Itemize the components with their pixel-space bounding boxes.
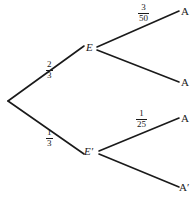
fraction-numerator: 3 (138, 3, 149, 12)
probability-label-E-prime-to-A: 1 25 (136, 109, 147, 130)
tree-branch-lines (0, 0, 195, 199)
leaf-label-A-second: A (181, 77, 189, 88)
leaf-label-A-prime-bottom: A′ (179, 182, 189, 193)
node-label-E-prime: E′ (84, 146, 93, 157)
branch-line-E-to-A-prime (97, 50, 179, 82)
branch-line-E-prime-to-A-prime (99, 154, 179, 187)
probability-label-root-to-E: 2 3 (46, 60, 53, 81)
probability-label-root-to-E-prime: 1 3 (46, 128, 53, 149)
fraction-numerator: 1 (136, 109, 147, 118)
leaf-label-A-top: A (181, 6, 189, 17)
probability-tree-diagram: E E′ A A A A′ 2 3 1 3 3 50 1 25 (0, 0, 195, 199)
fraction-denominator: 25 (136, 120, 147, 129)
probability-label-E-to-A: 3 50 (138, 3, 149, 24)
fraction-denominator: 50 (138, 14, 149, 23)
fraction-denominator: 3 (46, 71, 53, 80)
leaf-label-A-third: A (181, 113, 189, 124)
fraction-numerator: 2 (46, 60, 53, 69)
fraction-denominator: 3 (46, 139, 53, 148)
fraction-numerator: 1 (46, 128, 53, 137)
node-label-E: E (86, 42, 93, 53)
